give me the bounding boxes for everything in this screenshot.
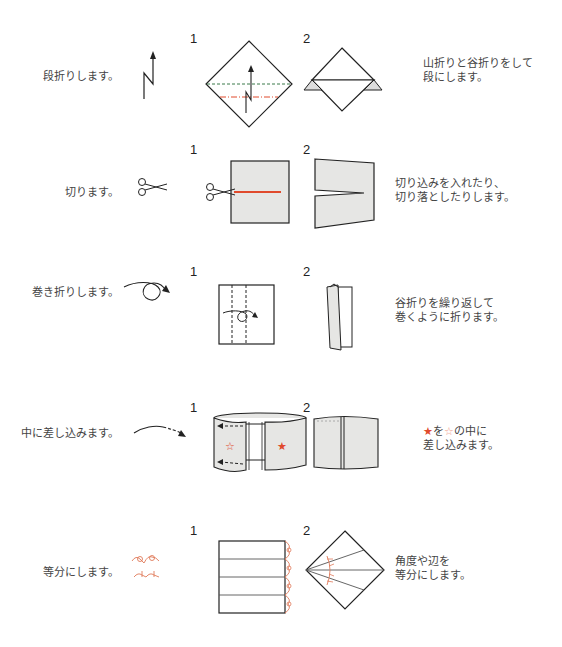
cut-result-diagram [314, 158, 384, 233]
row-roll-fold: 巻き折りします。 1 2 谷折りを繰り返して 巻くように折ります。 [0, 255, 562, 375]
step-number: 1 [190, 523, 197, 538]
step-number: 2 [303, 400, 310, 415]
insert-result-diagram [313, 413, 383, 483]
row-description: 切り込みを入れたり、 切り落としたりします。 [395, 177, 515, 205]
roll-fold-result-diagram [326, 284, 362, 356]
roll-fold-arrow-icon [122, 281, 172, 309]
diamond-step-fold-diagram [205, 40, 295, 130]
row-step-fold: 段折りします。 1 2 山折りと谷折りをして 段にします。 [0, 0, 562, 140]
row-label: 段折りします。 [43, 67, 119, 83]
filled-star-icon: ★ [423, 425, 433, 438]
row-label: 中に差し込みます。 [21, 424, 119, 440]
insert-band-diagram: ☆ ★ [213, 412, 313, 482]
step-number: 1 [190, 400, 197, 415]
row-description: 谷折りを繰り返して 巻くように折ります。 [395, 297, 504, 325]
insert-dashed-arrow-icon [133, 421, 189, 441]
equal-division-mark-icon [131, 555, 167, 585]
angle-division-diagram [305, 530, 395, 622]
outline-star-icon: ☆ [444, 425, 454, 438]
row-description: 角度や辺を 等分にします。 [395, 555, 471, 583]
row-label: 巻き折りします。 [32, 283, 119, 299]
row-label: 切ります。 [65, 183, 119, 199]
step-number: 1 [190, 142, 197, 157]
step-number: 1 [190, 264, 197, 279]
step-number: 2 [303, 31, 310, 46]
row-description: 山折りと谷折りをして 段にします。 [423, 57, 533, 85]
step-number: 2 [303, 142, 310, 157]
row-insert: 中に差し込みます。 1 ☆ ★ 2 ★を☆の中に 差し込みます。 [0, 375, 562, 500]
roll-fold-square-diagram [218, 284, 288, 354]
cut-square-diagram [205, 160, 315, 230]
step-fold-result-diagram [304, 47, 390, 113]
step-number: 1 [190, 31, 197, 46]
row-description: ★を☆の中に 差し込みます。 [423, 425, 499, 453]
step-fold-arrow-icon [140, 50, 160, 110]
row-equal-division: 等分にします。 1 2 角度や辺を 等分にします。 [0, 500, 562, 647]
svg-text:★: ★ [277, 440, 287, 453]
row-cut: 切ります。 1 2 切り込みを入れたり、 切り落としたりします。 [0, 140, 562, 255]
equal-division-square-diagram [218, 540, 308, 620]
row-label: 等分にします。 [43, 563, 119, 579]
scissors-icon [137, 177, 171, 199]
svg-text:☆: ☆ [225, 440, 235, 453]
step-number: 2 [303, 264, 310, 279]
